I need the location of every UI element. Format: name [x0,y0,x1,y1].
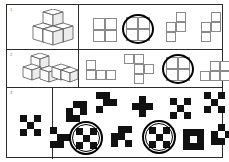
checker-cell [110,99,117,106]
checker-cell [218,138,225,145]
checker-cell [177,98,184,105]
checker-cell [125,133,132,140]
checker-cell [146,103,153,110]
checker-cell [110,106,117,113]
checker-cell [190,143,197,150]
checker-cell [66,101,73,108]
checker-cell [20,115,27,122]
checker-cell [183,129,190,136]
cube-stack-four-cubes [21,9,77,47]
option-2c-square-tetromino-circled[interactable] [160,53,196,85]
option-3k-checker-mixed[interactable] [211,124,229,145]
checker-cell [139,110,146,117]
worksheet-row-3: 3 [7,88,222,159]
worksheet-row-1: 1 [7,5,222,49]
option-3b-checker-diagonal-b[interactable] [96,92,117,113]
checker-cell [204,106,211,113]
checker-cell [50,127,57,134]
checker-cell [170,112,177,119]
checker-cell [197,129,204,136]
checker-cell [118,126,125,133]
checker-cell [184,98,191,105]
cube-stack-five-cubes [18,53,80,86]
poly-cell [124,54,134,64]
checker-cell [96,99,103,106]
checker-cell [218,99,225,106]
checker-cell [197,143,204,150]
option-3d-checker-x-corners[interactable] [170,98,191,119]
checker-cell [57,134,64,141]
poly-cell [86,70,96,80]
checker-cell [211,106,218,113]
checker-cell [80,108,87,115]
poly-cell [96,70,106,80]
checker-cell [118,140,125,147]
option-3e-checker-alt-corners[interactable] [204,92,225,113]
poly-cell [144,64,154,74]
checker-cell [170,105,177,112]
checker-cell [27,122,34,129]
poly-cell [176,22,186,32]
checker-cell [183,136,190,143]
checker-cell [183,143,190,150]
poly-cell [134,64,144,74]
checker-cell [211,92,218,99]
checker-cell [103,99,110,106]
checker-cell [110,92,117,99]
checker-cell [132,103,139,110]
poly-cell [201,22,211,32]
checker-cell [80,101,87,108]
checker-cell [111,126,118,133]
checker-cell [125,126,132,133]
checker-cell [184,112,191,119]
poly-cell [105,18,117,30]
option-3j-checker-inverse-center[interactable] [183,129,204,150]
checker-cell [34,115,41,122]
worksheet-row-2: 2 [7,50,222,87]
checker-cell [177,105,184,112]
checker-cell [211,124,218,131]
checker-cell [211,138,218,145]
poly-cell [93,30,105,42]
option-3c-checker-plus-cross[interactable] [132,96,153,117]
option-3g-checker-circled-left[interactable] [69,121,103,155]
poly-cell [220,61,229,71]
option-3f-checker-corner-block[interactable] [50,127,71,148]
checker-cell [184,105,191,112]
checker-cell [139,103,146,110]
checker-cell [111,133,118,140]
checker-cell [132,110,139,117]
poly-cell [105,30,117,42]
checker-cell [218,131,225,138]
checker-cell [103,92,110,99]
option-3a-checker-diagonal-a[interactable] [66,101,87,122]
checker-cell [211,99,218,106]
checker-cell [225,138,229,145]
poly-cell [220,71,229,81]
poly-cell [86,60,96,70]
worksheet-sheet: 1 [0,0,229,162]
poly-cell [93,18,105,30]
option-3h-checker-zigzag[interactable] [111,126,132,147]
checker-cell [73,101,80,108]
checker-cell [118,133,125,140]
answer-circle-marker-inner [145,123,173,151]
option-1b-square-tetromino-circled[interactable] [120,13,156,45]
poly-cell [210,61,220,71]
row-1-options [78,5,222,49]
poly-cell [134,74,144,84]
checker-cell [96,106,103,113]
checker-cell [218,124,225,131]
option-3i-checker-circled-right[interactable] [142,120,176,154]
checker-cell [204,92,211,99]
checker-cell [20,129,27,136]
checker-cell [57,141,64,148]
checker-cell [211,131,218,138]
row-label-3: 3 [10,90,12,95]
checker-cell [170,98,177,105]
checker-cell [125,140,132,147]
checker-cell [96,92,103,99]
poly-cell [201,32,211,42]
poly-cell [106,70,116,80]
row-label-2: 2 [10,52,12,57]
